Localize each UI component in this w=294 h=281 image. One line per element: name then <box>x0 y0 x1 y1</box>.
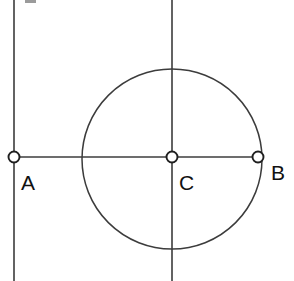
point-a-marker[interactable] <box>9 152 20 163</box>
figure-canvas: A C B <box>0 0 294 281</box>
point-c-marker[interactable] <box>167 152 178 163</box>
geometry-figure: A C B <box>0 0 294 281</box>
point-b-label: B <box>271 161 285 184</box>
point-a-label: A <box>21 171 35 194</box>
point-c-label: C <box>179 171 194 194</box>
point-b-marker[interactable] <box>253 152 264 163</box>
